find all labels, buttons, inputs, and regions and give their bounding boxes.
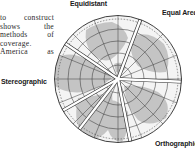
label-stereographic: Stereographic: [1, 78, 47, 85]
label-equidistant: Equidistant: [70, 0, 107, 7]
label-equal-area: Equal Area: [162, 9, 195, 16]
projection-diagram: [0, 0, 195, 152]
label-orthographic: Orthographic: [155, 140, 195, 147]
